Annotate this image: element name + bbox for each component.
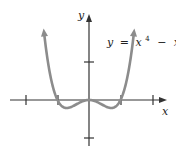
curve-arrow-left-icon: [41, 29, 48, 37]
x-axis-arrow-icon: [159, 97, 167, 103]
x-axis-label: x: [162, 105, 169, 118]
graph: y x y = x 4 − x 2: [0, 0, 176, 157]
equation-label: y = x 4 − x 2: [106, 31, 176, 49]
y-axis-arrow-icon: [86, 14, 92, 22]
y-axis-label: y: [77, 9, 85, 22]
